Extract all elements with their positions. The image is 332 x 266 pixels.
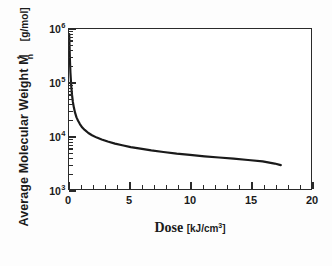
x-axis-units: [kJ/cm3] xyxy=(187,223,226,234)
plot-area xyxy=(68,28,312,190)
x-axis-tick-label: 10 xyxy=(184,195,196,206)
data-curve-svg xyxy=(69,29,311,189)
x-axis-minor-tick xyxy=(178,185,179,189)
chart-figure: Average Molecular Weight M*n [g/mol] 103… xyxy=(0,0,332,266)
y-axis-tick-mantissa: 10 xyxy=(49,185,61,197)
y-axis-tick-exponent: 3 xyxy=(61,183,65,192)
y-axis-minor-tick xyxy=(69,40,73,41)
x-axis-major-tick xyxy=(251,182,253,189)
y-axis-symbol-superscript: * xyxy=(15,56,24,59)
x-axis-minor-tick xyxy=(166,185,167,189)
x-axis-minor-tick xyxy=(105,185,106,189)
y-axis-minor-tick xyxy=(69,165,73,166)
series-line xyxy=(69,34,281,165)
x-axis-tick-label: 5 xyxy=(126,195,132,206)
y-axis-minor-tick xyxy=(69,34,73,35)
x-axis-minor-tick xyxy=(142,185,143,189)
y-axis-minor-tick xyxy=(69,99,73,100)
y-axis-minor-tick xyxy=(69,88,73,89)
x-axis-minor-tick xyxy=(81,185,82,189)
y-axis-major-tick xyxy=(69,82,76,84)
y-axis-tick-mantissa: 10 xyxy=(49,77,61,89)
y-axis-units: [g/mol] xyxy=(19,7,30,41)
x-axis-minor-tick xyxy=(117,185,118,189)
y-axis-minor-tick xyxy=(69,142,73,143)
y-axis-major-tick xyxy=(69,190,76,192)
x-axis-tick-label: 20 xyxy=(306,195,318,206)
y-axis-minor-tick xyxy=(69,91,73,92)
x-axis-units-pre: [kJ/cm xyxy=(187,223,219,234)
y-axis-tick-exponent: 6 xyxy=(61,21,65,30)
y-axis-title-container: Average Molecular Weight M*n [g/mol] xyxy=(0,0,30,240)
y-axis-minor-tick xyxy=(69,94,73,95)
y-axis-minor-tick xyxy=(69,139,73,140)
x-axis-units-post: ] xyxy=(222,223,225,234)
y-axis-title-main: Average Molecular Weight xyxy=(17,68,31,226)
x-axis-major-tick xyxy=(312,182,314,189)
y-axis-minor-tick xyxy=(69,31,73,32)
y-axis-minor-tick xyxy=(69,120,73,121)
x-axis-tick-label: 15 xyxy=(245,195,257,206)
y-axis-minor-tick xyxy=(69,158,73,159)
y-axis-minor-tick xyxy=(69,85,73,86)
y-axis-minor-tick xyxy=(69,148,73,149)
x-axis-title: Dose [kJ/cm3] xyxy=(68,220,312,236)
y-axis-major-tick xyxy=(69,136,76,138)
y-axis-tick-label: 106 xyxy=(49,22,65,34)
x-axis-minor-tick xyxy=(215,185,216,189)
x-axis-minor-tick xyxy=(300,185,301,189)
y-axis-tick-exponent: 5 xyxy=(61,75,65,84)
y-axis-major-tick xyxy=(69,28,76,30)
x-axis-major-tick xyxy=(129,182,131,189)
y-axis-minor-tick xyxy=(69,50,73,51)
x-axis-minor-tick xyxy=(203,185,204,189)
x-axis-minor-tick xyxy=(239,185,240,189)
y-axis-minor-tick xyxy=(69,153,73,154)
y-axis-minor-tick xyxy=(69,37,73,38)
y-axis-tick-labels: 103104105106 xyxy=(32,0,65,266)
y-axis-tick-exponent: 4 xyxy=(61,129,65,138)
x-axis-minor-tick xyxy=(264,185,265,189)
y-axis-tick-label: 105 xyxy=(49,76,65,88)
y-axis-tick-label: 104 xyxy=(49,130,65,142)
x-axis-minor-tick xyxy=(276,185,277,189)
x-axis-major-tick xyxy=(68,182,70,189)
y-axis-minor-tick xyxy=(69,66,73,67)
y-axis-tick-mantissa: 10 xyxy=(49,23,61,35)
y-axis-minor-tick xyxy=(69,145,73,146)
x-axis-tick-label: 0 xyxy=(65,195,71,206)
y-axis-minor-tick xyxy=(69,174,73,175)
x-axis-minor-tick xyxy=(288,185,289,189)
y-axis-minor-tick xyxy=(69,57,73,58)
y-axis-tick-mantissa: 10 xyxy=(49,131,61,143)
y-axis-minor-tick xyxy=(69,104,73,105)
x-axis-minor-tick xyxy=(154,185,155,189)
x-axis-major-tick xyxy=(190,182,192,189)
x-axis-minor-tick xyxy=(227,185,228,189)
y-axis-minor-tick xyxy=(69,111,73,112)
y-axis-minor-tick xyxy=(69,45,73,46)
x-axis-tick-labels: 05101520 xyxy=(68,195,312,213)
x-axis-minor-tick xyxy=(93,185,94,189)
x-axis-title-main: Dose xyxy=(154,220,183,235)
y-axis-tick-label: 103 xyxy=(49,184,65,196)
